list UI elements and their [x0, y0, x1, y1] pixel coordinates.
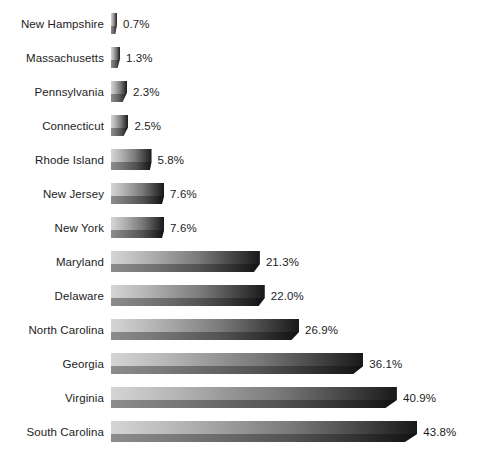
- bar-top-face: [111, 183, 164, 196]
- bar: [111, 13, 117, 35]
- category-label: Connecticut: [0, 120, 104, 132]
- bar-top-face: [111, 47, 120, 60]
- category-label: Pennsylvania: [0, 86, 104, 98]
- bar-row: Virginia40.9%: [0, 381, 492, 415]
- category-label: South Carolina: [0, 426, 104, 438]
- value-label: 2.5%: [134, 115, 161, 136]
- category-label: Delaware: [0, 290, 104, 302]
- value-label: 43.8%: [423, 421, 456, 442]
- bar-body: [111, 285, 265, 306]
- bar-body: [111, 421, 417, 442]
- category-label: New Hampshire: [0, 18, 104, 30]
- bar-row: South Carolina43.8%: [0, 415, 492, 449]
- bar-top-face: [111, 319, 299, 332]
- bar: [111, 115, 128, 137]
- category-label: Massachusetts: [0, 52, 104, 64]
- bar: [111, 319, 299, 341]
- bar: [111, 217, 164, 239]
- bar-body: [111, 13, 117, 34]
- bar: [111, 149, 152, 171]
- bar-bottom-face: [111, 26, 117, 34]
- bar: [111, 81, 127, 103]
- bar-bottom-face: [111, 162, 152, 170]
- bar-body: [111, 251, 260, 272]
- bar-row: Connecticut2.5%: [0, 109, 492, 143]
- category-label: New Jersey: [0, 188, 104, 200]
- bar-body: [111, 47, 120, 68]
- value-label: 26.9%: [305, 319, 338, 340]
- bar: [111, 285, 265, 307]
- bar-bottom-face: [111, 298, 265, 306]
- bar-bottom-face: [111, 366, 363, 374]
- bar-bottom-face: [111, 230, 164, 238]
- value-label: 5.8%: [158, 149, 185, 170]
- bar-bottom-face: [111, 400, 397, 408]
- bar: [111, 353, 363, 375]
- bar-top-face: [111, 13, 117, 26]
- bar-top-face: [111, 217, 164, 230]
- value-label: 0.7%: [123, 13, 150, 34]
- value-label: 7.6%: [170, 217, 197, 238]
- bar-bottom-face: [111, 94, 127, 102]
- bar: [111, 387, 397, 409]
- bar: [111, 183, 164, 205]
- category-label: Georgia: [0, 358, 104, 370]
- bar-top-face: [111, 115, 128, 128]
- bar-row: Delaware22.0%: [0, 279, 492, 313]
- bar-bottom-face: [111, 264, 260, 272]
- category-label: Maryland: [0, 256, 104, 268]
- bar-row: Pennsylvania2.3%: [0, 75, 492, 109]
- bar-body: [111, 115, 128, 136]
- bar-top-face: [111, 251, 260, 264]
- bar-row: New York7.6%: [0, 211, 492, 245]
- bar-body: [111, 217, 164, 238]
- bar-body: [111, 183, 164, 204]
- bar-top-face: [111, 353, 363, 366]
- bar-bottom-face: [111, 434, 417, 442]
- bar-row: Rhode Island5.8%: [0, 143, 492, 177]
- bar-top-face: [111, 421, 417, 434]
- bar: [111, 47, 120, 69]
- bar-body: [111, 319, 299, 340]
- category-label: Virginia: [0, 392, 104, 404]
- value-label: 2.3%: [133, 81, 160, 102]
- bar-row: North Carolina26.9%: [0, 313, 492, 347]
- bar-top-face: [111, 387, 397, 400]
- value-label: 40.9%: [403, 387, 436, 408]
- value-label: 22.0%: [271, 285, 304, 306]
- bar-row: Georgia36.1%: [0, 347, 492, 381]
- bar-top-face: [111, 81, 127, 94]
- bar-body: [111, 149, 152, 170]
- bar-rows-container: New Hampshire0.7%Massachusetts1.3%Pennsy…: [0, 0, 492, 454]
- bar-top-face: [111, 149, 152, 162]
- bar-chart: New Hampshire0.7%Massachusetts1.3%Pennsy…: [0, 0, 492, 454]
- bar-bottom-face: [111, 332, 299, 340]
- category-label: New York: [0, 222, 104, 234]
- bar-top-face: [111, 285, 265, 298]
- bar-row: Maryland21.3%: [0, 245, 492, 279]
- bar-body: [111, 81, 127, 102]
- category-label: Rhode Island: [0, 154, 104, 166]
- bar-bottom-face: [111, 60, 120, 68]
- category-label: North Carolina: [0, 324, 104, 336]
- bar-bottom-face: [111, 196, 164, 204]
- bar-body: [111, 353, 363, 374]
- value-label: 1.3%: [126, 47, 153, 68]
- bar-bottom-face: [111, 128, 128, 136]
- value-label: 21.3%: [266, 251, 299, 272]
- value-label: 36.1%: [369, 353, 402, 374]
- bar-body: [111, 387, 397, 408]
- bar-row: New Jersey7.6%: [0, 177, 492, 211]
- bar: [111, 421, 417, 443]
- bar-row: Massachusetts1.3%: [0, 41, 492, 75]
- bar-row: New Hampshire0.7%: [0, 7, 492, 41]
- value-label: 7.6%: [170, 183, 197, 204]
- bar: [111, 251, 260, 273]
